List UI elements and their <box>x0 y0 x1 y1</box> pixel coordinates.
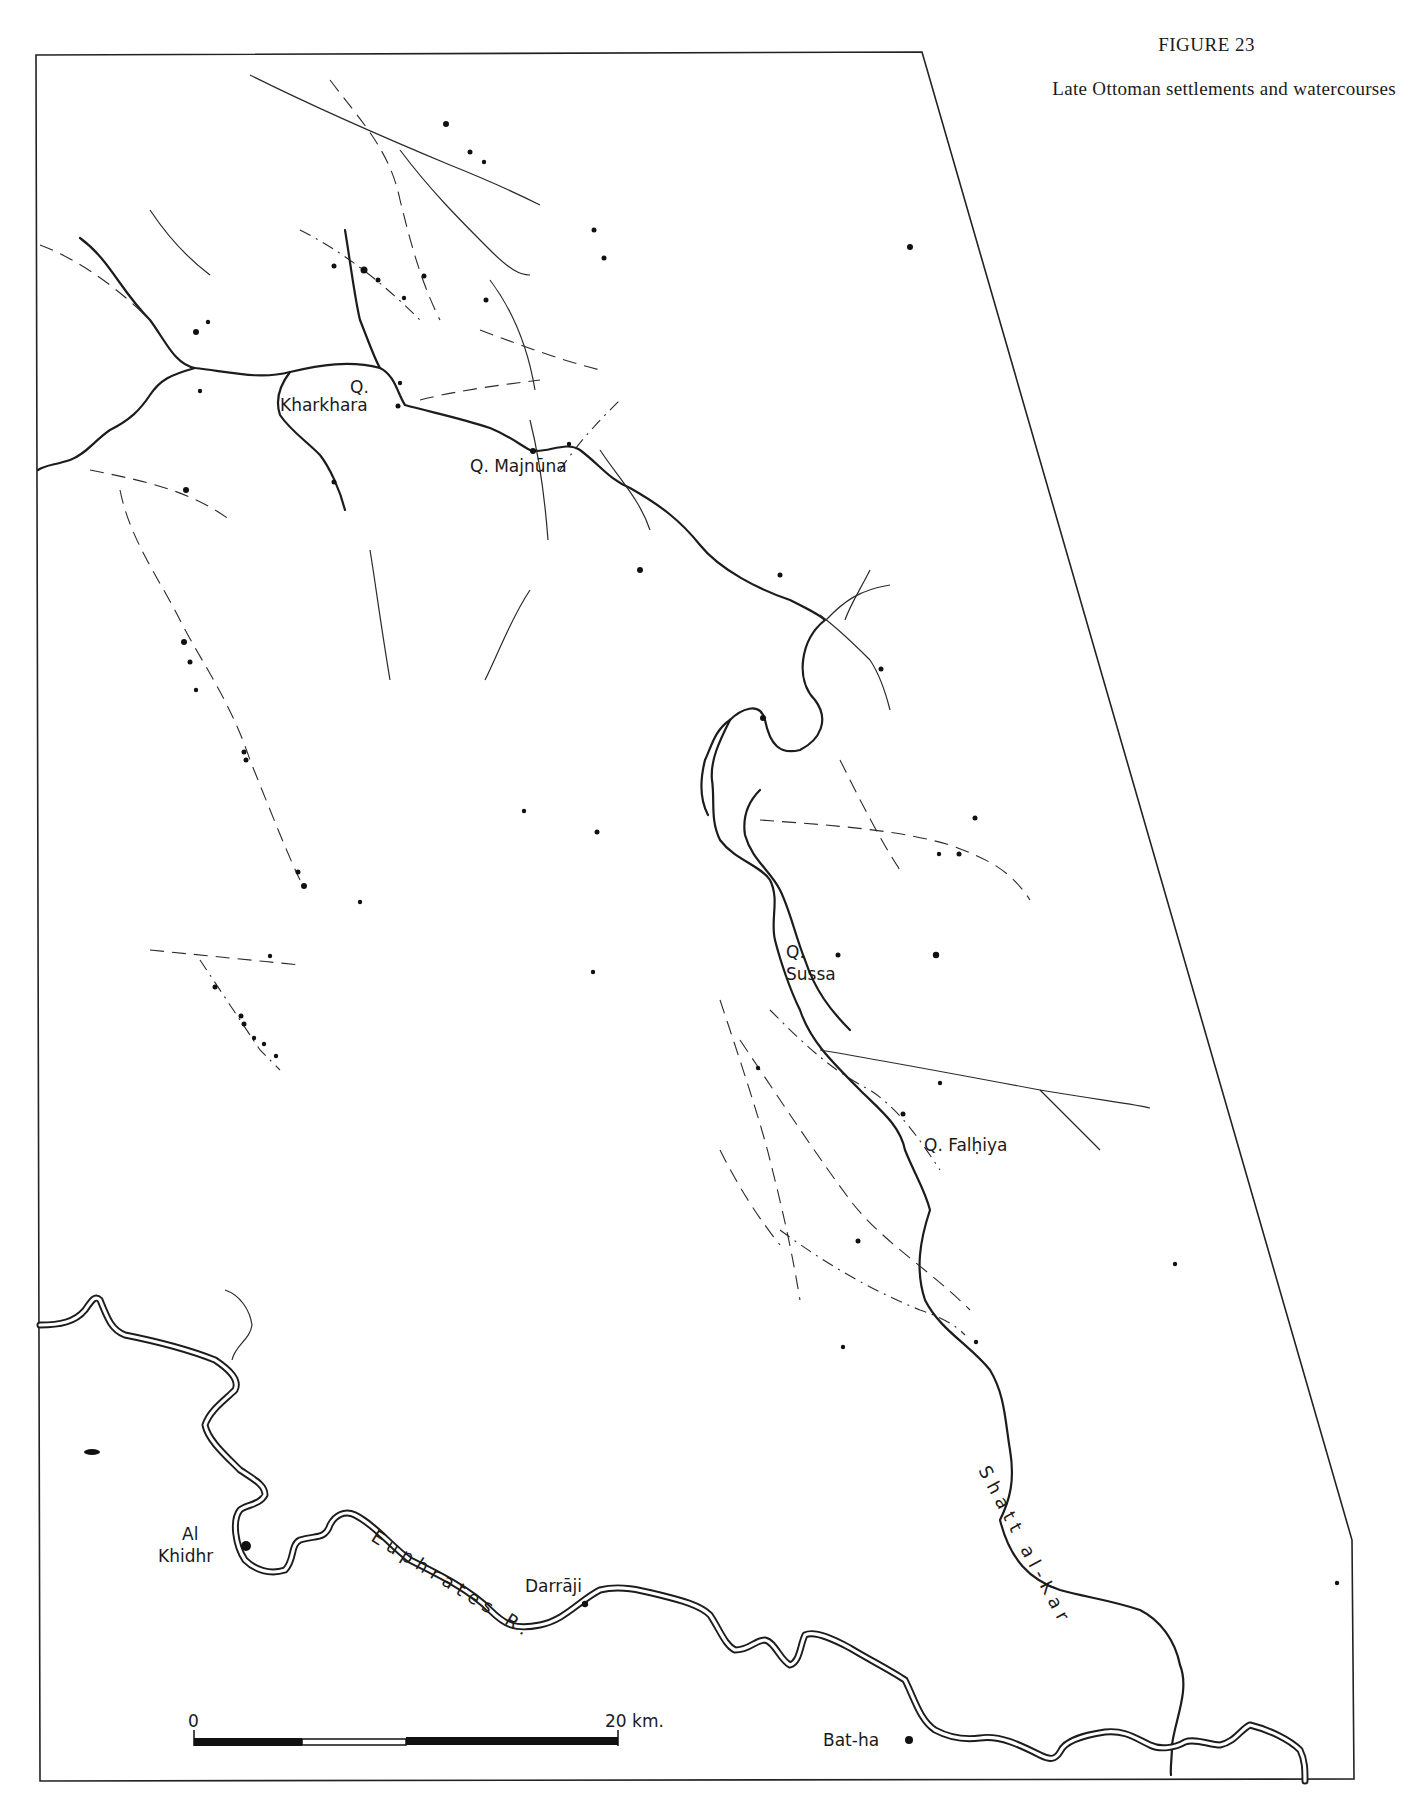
euphrates-label: Euphrates R. <box>368 1526 538 1643</box>
dashed-canal-9 <box>720 1000 800 1300</box>
central-canal-3 <box>370 550 390 680</box>
majnuna-label: Q. Majnūna <box>470 456 567 476</box>
north-canal-2 <box>400 150 530 275</box>
shatt-al-kar-label: Shatt al-Kar <box>974 1462 1076 1629</box>
north-loop <box>702 720 730 815</box>
dashed-canal-4 <box>90 470 230 520</box>
north-canal-1 <box>250 75 540 205</box>
al-khidhr-label-2: Khidhr <box>158 1546 213 1566</box>
kharkhara-loop <box>278 372 345 510</box>
north-canal-4 <box>490 280 535 390</box>
dashed-canal-3 <box>420 380 540 400</box>
sussa-label-q: Q. <box>786 942 805 962</box>
sussa-label: Sussa <box>786 964 836 984</box>
bat-ha-label: Bat-ha <box>823 1730 879 1750</box>
eastern-canal-branch <box>1040 1090 1100 1150</box>
kharkhara-label: Kharkhara <box>280 395 368 415</box>
dashdot-canal-3 <box>770 1010 940 1170</box>
dashed-canal-8 <box>840 760 900 870</box>
dashed-canal-10 <box>740 1040 970 1310</box>
map-canvas: Q. Kharkhara Q. Majnūna Q. Sussa Q. Falḥ… <box>0 0 1423 1807</box>
dashed-canal-5 <box>120 490 300 880</box>
dashed-canal-2 <box>40 245 150 320</box>
northern-river <box>80 238 825 751</box>
dashed-canal-12 <box>150 950 300 965</box>
settlement-sites <box>84 121 1339 1744</box>
dashed-canal-7 <box>760 820 1030 900</box>
falhiya-label: Q. Falḥiya <box>924 1135 1008 1155</box>
dashdot-canal-1 <box>300 230 420 320</box>
central-canal-2 <box>530 420 548 540</box>
khidhr-tributary <box>225 1290 252 1360</box>
euphrates-river <box>40 1298 1305 1781</box>
al-khidhr-label-1: Al <box>182 1524 198 1544</box>
kharkhara-branch-north <box>345 230 380 368</box>
dashed-canal-6 <box>480 330 600 370</box>
scale-end-label: 20 km. <box>605 1711 664 1731</box>
central-canal-4 <box>485 590 530 680</box>
dashed-canal-1 <box>330 80 440 320</box>
kharkhara-label-q: Q. <box>350 377 369 397</box>
northern-river-west <box>38 368 195 470</box>
tributary-ne <box>826 585 890 620</box>
central-canal <box>600 450 650 530</box>
north-canal-3 <box>150 210 210 275</box>
tributary-east <box>820 615 890 710</box>
scale-start-label: 0 <box>188 1711 199 1731</box>
darraji-label: Darrāji <box>525 1576 582 1596</box>
shatt-al-kar <box>712 720 1184 1775</box>
dashed-canal-11 <box>720 1150 780 1245</box>
scale-bar: 0 20 km. <box>188 1711 664 1746</box>
